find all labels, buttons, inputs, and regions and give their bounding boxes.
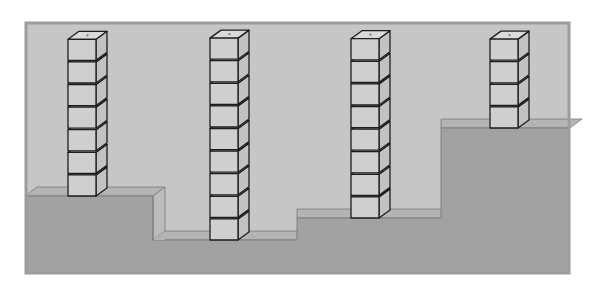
tower-1 <box>68 31 107 196</box>
ground-level-4 <box>441 119 582 274</box>
stacked-blocks-diagram <box>0 0 594 289</box>
cube-front-face <box>351 174 379 195</box>
cube-top-dot <box>369 34 371 36</box>
cube-front-face <box>210 174 238 195</box>
cube-front-face <box>68 175 96 196</box>
cube-front-face <box>210 129 238 150</box>
cube-front-face <box>351 39 379 60</box>
cube-front-face <box>351 84 379 105</box>
cube-front-face <box>68 62 96 83</box>
cube-front-face <box>68 39 96 60</box>
tower-2 <box>210 30 249 240</box>
cube-front-face <box>210 196 238 217</box>
cube-front-face <box>490 84 518 105</box>
cube-front-face <box>490 107 518 128</box>
ground-front-face <box>153 240 297 274</box>
cube-front-face <box>210 83 238 104</box>
cube-front-face <box>351 129 379 150</box>
cube-front-face <box>351 152 379 173</box>
tower-3 <box>351 31 390 218</box>
ground-level-1 <box>25 187 165 274</box>
cube-front-face <box>210 106 238 127</box>
ground-level-3 <box>297 209 453 274</box>
cube-front-face <box>351 197 379 218</box>
ground-step-side-face <box>153 187 165 240</box>
cube-front-face <box>210 219 238 240</box>
ground-front-face <box>297 218 441 274</box>
cube-front-face <box>68 130 96 151</box>
ground-front-face <box>25 196 153 274</box>
cube-front-face <box>210 38 238 59</box>
cube-top-dot <box>86 34 88 36</box>
cube-front-face <box>490 39 518 60</box>
tower-4 <box>490 31 529 128</box>
cube-front-face <box>490 62 518 83</box>
cube-top-dot <box>228 33 230 35</box>
cube-top-dot <box>508 34 510 36</box>
cube-front-face <box>210 61 238 82</box>
cube-front-face <box>68 85 96 106</box>
cube-front-face <box>210 151 238 172</box>
cube-front-face <box>351 61 379 82</box>
cube-front-face <box>68 152 96 173</box>
cube-front-face <box>351 107 379 128</box>
cube-front-face <box>68 107 96 128</box>
ground-front-face <box>441 128 570 274</box>
